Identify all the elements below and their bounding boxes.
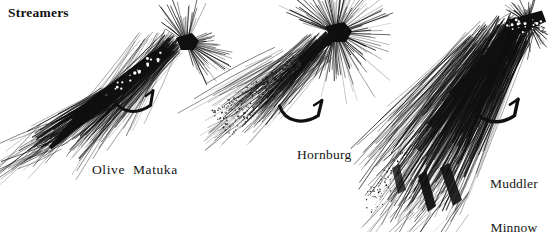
fly-illustrations-svg	[0, 0, 554, 232]
page-title: Streamers	[8, 5, 69, 21]
fly-caption-line-2: Minnow	[490, 221, 538, 233]
fly-caption-hornburg: Hornburg	[297, 148, 352, 163]
illustration-plate: Streamers Olive Matuka Hornburg Muddler …	[0, 0, 554, 232]
fly-caption-olive-matuka: Olive Matuka	[92, 163, 178, 178]
fly-caption-line-1: Muddler	[490, 177, 538, 192]
fly-caption-muddler-minnow: Muddler Minnow	[490, 148, 538, 232]
